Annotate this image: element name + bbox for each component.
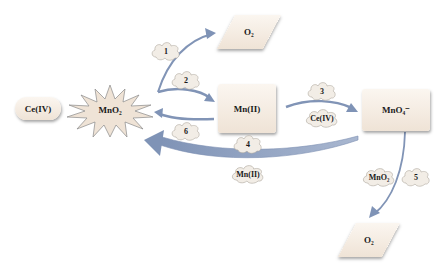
node-mno4: MnO₄⁻ bbox=[362, 89, 430, 131]
node-mn-ii-label: Mn(II) bbox=[234, 104, 261, 114]
cloud-step5-reagent: MnO₂ bbox=[361, 166, 397, 188]
node-mn-ii: Mn(II) bbox=[218, 84, 276, 133]
node-ce-iv-label: Ce(IV) bbox=[25, 104, 52, 114]
cloud-step6: 6 bbox=[170, 120, 202, 142]
arrow-step6 bbox=[154, 108, 214, 119]
reaction-diagram: Ce(IV) MnO₂ O₂ Mn(II) MnO₄⁻ O₂ 1 2 6 3 C… bbox=[0, 0, 447, 268]
arrow-step2 bbox=[158, 89, 215, 102]
node-mno4-label: MnO₄⁻ bbox=[382, 105, 410, 115]
cloud-step4-reagent: Mn(II) bbox=[230, 163, 266, 185]
node-o2-top-label: O₂ bbox=[244, 27, 254, 37]
node-o2-bottom-label: O₂ bbox=[364, 235, 374, 245]
cloud-step4: 4 bbox=[232, 133, 264, 155]
cloud-step1: 1 bbox=[150, 40, 182, 62]
cloud-step5: 5 bbox=[400, 166, 432, 188]
node-mno2-label: MnO₂ bbox=[85, 100, 135, 120]
cloud-step2: 2 bbox=[170, 69, 202, 91]
cloud-step3-reagent: Ce(IV) bbox=[304, 107, 340, 129]
node-ce-iv: Ce(IV) bbox=[15, 97, 61, 120]
cloud-step3: 3 bbox=[306, 80, 338, 102]
